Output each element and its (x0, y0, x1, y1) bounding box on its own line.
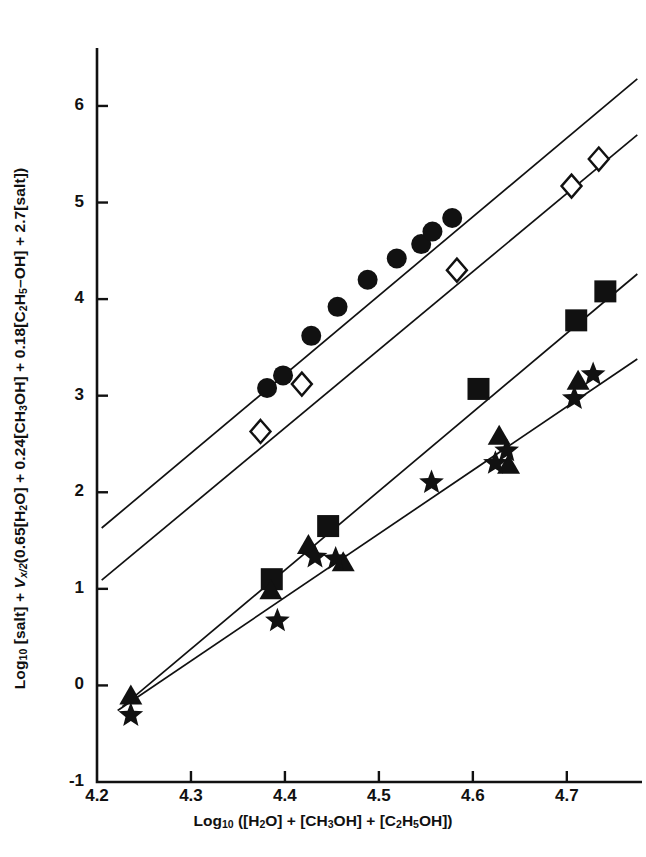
axis-spine (97, 48, 642, 782)
data-point-open-diamond (589, 148, 609, 171)
plot-area (0, 0, 646, 857)
line-circle (102, 79, 638, 528)
data-point-filled-triangle (119, 685, 142, 705)
axis-lines (97, 48, 642, 782)
data-point-open-diamond (292, 373, 312, 396)
line-star (118, 359, 638, 711)
data-markers (118, 148, 616, 726)
data-point-filled-square (594, 280, 616, 302)
data-point-filled-circle (442, 208, 462, 228)
line-diamond (102, 135, 638, 580)
data-point-filled-circle (422, 222, 442, 242)
data-point-filled-square (468, 378, 490, 400)
fit-lines (102, 79, 638, 711)
data-point-filled-circle (358, 270, 378, 290)
data-point-filled-circle (387, 249, 407, 269)
chart-figure: Log10 [salt] + Vx/2(0.65[H2O] + 0.24[CH3… (0, 0, 646, 857)
data-point-filled-circle (257, 378, 277, 398)
data-point-open-diamond (251, 420, 271, 443)
data-point-filled-square (565, 309, 587, 331)
data-point-filled-square (317, 515, 339, 537)
data-point-filled-star (419, 470, 444, 494)
data-point-filled-circle (328, 297, 348, 317)
data-point-filled-star (265, 608, 290, 632)
data-point-filled-circle (273, 365, 293, 385)
line-square (122, 274, 637, 707)
data-point-open-diamond (562, 175, 582, 198)
data-point-filled-circle (301, 326, 321, 346)
